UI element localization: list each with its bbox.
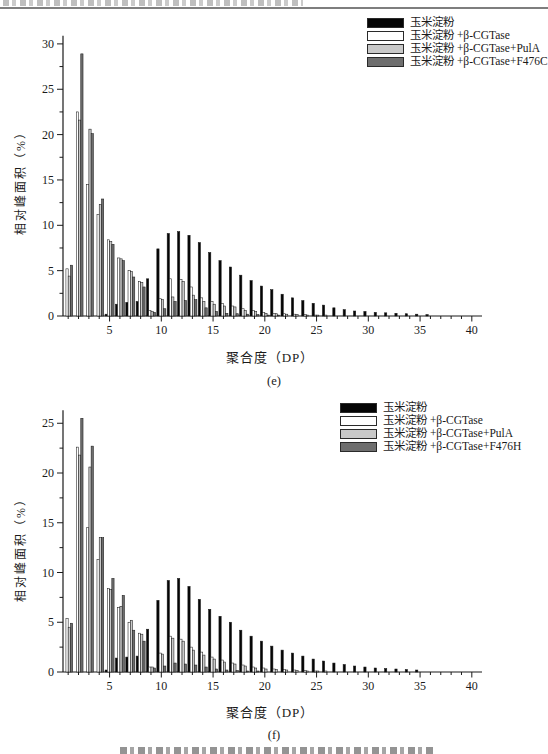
chart-e-xlabel: 聚合度（DP） — [0, 347, 540, 366]
legend-item: 玉米淀粉 — [340, 402, 521, 413]
svg-text:20: 20 — [259, 323, 271, 337]
svg-text:5: 5 — [48, 264, 54, 278]
svg-text:35: 35 — [414, 679, 426, 693]
legend-item: 玉米淀粉 +β-CGTase+F476H — [340, 441, 521, 452]
svg-text:15: 15 — [207, 679, 219, 693]
chart-f-caption: (f) — [0, 728, 548, 743]
chart-e: 相对峰面积（%） 051015202530510152025303540 玉米淀… — [0, 0, 548, 392]
svg-text:10: 10 — [42, 566, 54, 580]
legend-swatch — [340, 416, 377, 426]
legend-label: 玉米淀粉 +β-CGTase+PulA — [383, 428, 513, 440]
svg-text:25: 25 — [311, 679, 323, 693]
legend-label: 玉米淀粉 — [410, 17, 454, 29]
legend-item: 玉米淀粉 +β-CGTase+F476C — [367, 56, 548, 67]
svg-text:15: 15 — [42, 516, 54, 530]
page: 相对峰面积（%） 051015202530510152025303540 玉米淀… — [0, 0, 548, 754]
legend-label: 玉米淀粉 — [383, 402, 427, 414]
legend-item: 玉米淀粉 +β-CGTase+PulA — [340, 428, 521, 439]
legend-item: 玉米淀粉 +β-CGTase — [340, 415, 521, 426]
svg-text:30: 30 — [362, 679, 374, 693]
svg-text:10: 10 — [155, 323, 167, 337]
legend-label: 玉米淀粉 +β-CGTase+F476C — [410, 56, 548, 68]
svg-text:30: 30 — [42, 37, 54, 51]
svg-text:5: 5 — [107, 679, 113, 693]
legend-swatch — [367, 57, 404, 67]
svg-text:25: 25 — [42, 82, 54, 96]
legend-label: 玉米淀粉 +β-CGTase — [410, 30, 510, 42]
chart-e-legend: 玉米淀粉玉米淀粉 +β-CGTase玉米淀粉 +β-CGTase+PulA玉米淀… — [367, 17, 548, 67]
svg-text:20: 20 — [42, 466, 54, 480]
svg-text:40: 40 — [466, 323, 478, 337]
svg-text:20: 20 — [259, 679, 271, 693]
chart-f-xlabel: 聚合度（DP） — [0, 702, 540, 721]
chart-e-caption: (e) — [0, 374, 548, 389]
chart-f-legend: 玉米淀粉玉米淀粉 +β-CGTase玉米淀粉 +β-CGTase+PulA玉米淀… — [340, 402, 521, 452]
svg-text:25: 25 — [42, 416, 54, 430]
svg-text:10: 10 — [155, 679, 167, 693]
legend-swatch — [367, 44, 404, 54]
svg-text:15: 15 — [42, 173, 54, 187]
legend-swatch — [367, 31, 404, 41]
legend-label: 玉米淀粉 +β-CGTase — [383, 415, 483, 427]
legend-item: 玉米淀粉 — [367, 17, 548, 28]
svg-text:0: 0 — [48, 309, 54, 323]
legend-item: 玉米淀粉 +β-CGTase — [367, 30, 548, 41]
legend-label: 玉米淀粉 +β-CGTase+F476H — [383, 441, 521, 453]
svg-text:5: 5 — [107, 323, 113, 337]
svg-text:0: 0 — [48, 665, 54, 679]
legend-swatch — [340, 403, 377, 413]
svg-text:35: 35 — [414, 323, 426, 337]
legend-item: 玉米淀粉 +β-CGTase+PulA — [367, 43, 548, 54]
legend-label: 玉米淀粉 +β-CGTase+PulA — [410, 43, 540, 55]
legend-swatch — [367, 18, 404, 28]
legend-swatch — [340, 429, 377, 439]
svg-text:10: 10 — [42, 218, 54, 232]
chart-f: 相对峰面积（%） 0510152025510152025303540 玉米淀粉玉… — [0, 390, 548, 754]
svg-text:20: 20 — [42, 128, 54, 142]
svg-text:25: 25 — [311, 323, 323, 337]
svg-text:5: 5 — [48, 615, 54, 629]
svg-text:15: 15 — [207, 323, 219, 337]
legend-swatch — [340, 442, 377, 452]
svg-text:40: 40 — [466, 679, 478, 693]
clipped-footer-caption — [120, 747, 436, 754]
svg-text:30: 30 — [362, 323, 374, 337]
